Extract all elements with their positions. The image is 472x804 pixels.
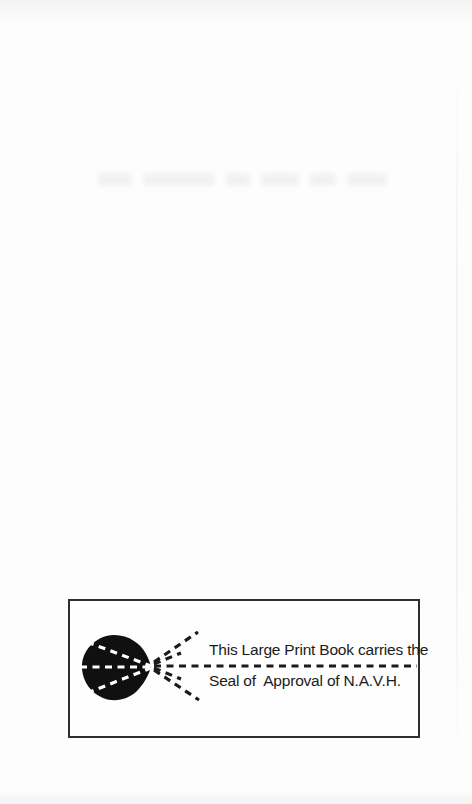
scan-noise-bottom [0, 790, 472, 804]
show-through-text-smudge [98, 166, 390, 192]
page-edge-line [456, 60, 458, 760]
navh-eye-seal-icon [70, 601, 418, 736]
navh-seal-box: This Large Print Book carries the Seal o… [68, 599, 420, 738]
scan-noise-top [0, 0, 472, 26]
seal-text-line2: Seal of Approval of N.A.V.H. [209, 673, 401, 689]
seal-text-line1: This Large Print Book carries the [209, 642, 428, 658]
scanned-page: { "page": { "kind": "scanned book flylea… [0, 0, 472, 804]
